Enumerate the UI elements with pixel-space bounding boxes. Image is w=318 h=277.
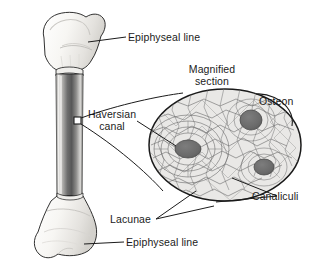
sample-site-marker (74, 117, 81, 124)
haversian-canal-center (175, 140, 201, 158)
label-epiphyseal-line-bottom: Epiphyseal line (126, 236, 198, 248)
bone-anatomy-diagram: Epiphyseal line Epiphyseal line Magnifie… (0, 0, 318, 277)
label-epiphyseal-line-top: Epiphyseal line (128, 31, 200, 43)
diaphysis-shaft (56, 74, 83, 196)
label-haversian-canal-line1: Haversian (83, 108, 141, 120)
label-haversian-canal: Haversian canal (83, 108, 141, 132)
label-lacunae: Lacunae (110, 213, 151, 225)
label-canaliculi: Canaliculi (252, 190, 299, 202)
label-magnified-section-line1: Magnified (176, 63, 248, 75)
label-magnified-section-line2: section (176, 75, 248, 87)
osteon-upper-right (240, 110, 262, 130)
long-bone (34, 12, 105, 257)
label-osteon: Osteon (259, 95, 293, 107)
osteon-lower-right (254, 159, 274, 175)
label-magnified-section: Magnified section (176, 63, 248, 87)
label-haversian-canal-line2: canal (83, 120, 141, 132)
